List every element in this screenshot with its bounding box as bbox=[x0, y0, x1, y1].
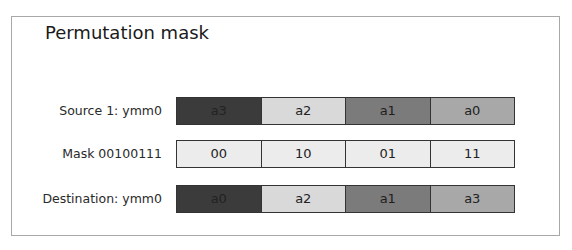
source-cell-3: a3 bbox=[177, 98, 262, 124]
mask-cell-3: 00 bbox=[177, 141, 262, 167]
source-cell-0: a0 bbox=[431, 98, 515, 124]
destination-cell-3: a0 bbox=[177, 186, 262, 212]
source-label: Source 1: ymm0 bbox=[59, 97, 162, 125]
mask-cell-0: 11 bbox=[431, 141, 515, 167]
destination-register: a0 a2 a1 a3 bbox=[176, 185, 515, 213]
diagram-title: Permutation mask bbox=[45, 22, 209, 43]
destination-cell-2: a2 bbox=[262, 186, 347, 212]
mask-register: 00 10 01 11 bbox=[176, 140, 515, 168]
source-register: a3 a2 a1 a0 bbox=[176, 97, 515, 125]
destination-label: Destination: ymm0 bbox=[42, 185, 162, 213]
destination-cell-0: a3 bbox=[431, 186, 515, 212]
source-cell-2: a2 bbox=[262, 98, 347, 124]
mask-cell-1: 01 bbox=[346, 141, 431, 167]
mask-label: Mask 00100111 bbox=[62, 140, 162, 168]
mask-cell-2: 10 bbox=[262, 141, 347, 167]
source-cell-1: a1 bbox=[346, 98, 431, 124]
destination-cell-1: a1 bbox=[346, 186, 431, 212]
